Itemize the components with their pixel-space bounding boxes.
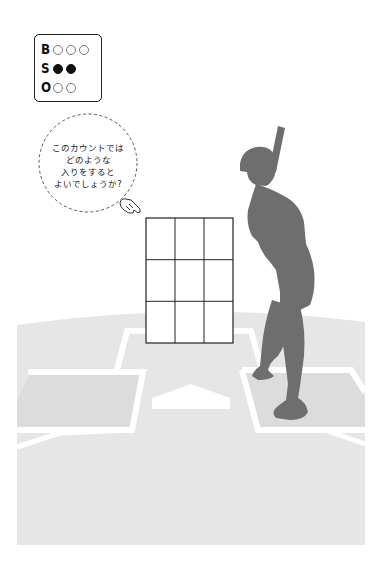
out-count-row: O [41, 78, 101, 97]
pointing-hand-icon [120, 199, 140, 213]
out-lamp-2 [66, 83, 76, 93]
out-lamp-1 [53, 83, 63, 93]
ball-label: B [41, 40, 51, 59]
strike-lamp-1 [53, 64, 63, 74]
speech-bubble-text: このカウントでは どのような 入りをすると よいでしょうか? [40, 142, 136, 190]
bubble-line-4: よいでしょうか? [40, 178, 136, 190]
out-label: O [41, 78, 51, 97]
strike-count-row: S [41, 59, 101, 78]
count-indicator: B S O [34, 34, 102, 102]
strike-lamp-2 [66, 64, 76, 74]
bubble-line-2: どのような [40, 154, 136, 166]
bubble-line-1: このカウントでは [40, 142, 136, 154]
ball-lamp-1 [53, 45, 63, 55]
bubble-line-3: 入りをすると [40, 166, 136, 178]
strike-zone-grid [146, 218, 233, 343]
ball-lamp-3 [79, 45, 89, 55]
strike-label: S [41, 59, 51, 78]
ball-lamp-2 [66, 45, 76, 55]
pitch-count-illustration: B S O このカウントでは どのような 入りをすると よいでしょうか? [0, 0, 384, 578]
ball-count-row: B [41, 40, 101, 59]
